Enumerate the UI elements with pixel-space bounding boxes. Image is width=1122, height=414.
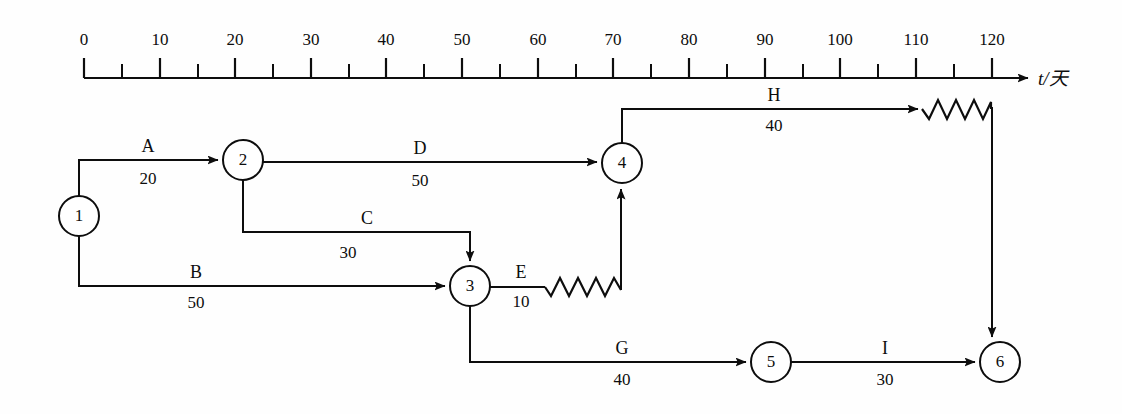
- axis-tick-label: 90: [757, 30, 774, 49]
- activity-E-name: E: [516, 262, 527, 282]
- axis-tick-label: 50: [454, 30, 471, 49]
- activity-G-name: G: [616, 338, 629, 358]
- axis-tick-label: 70: [605, 30, 622, 49]
- activity-G: [470, 306, 746, 362]
- event-node-6-label: 6: [996, 352, 1005, 371]
- event-node-4[interactable]: 4: [602, 143, 642, 183]
- axis-tick-label: 100: [827, 30, 853, 49]
- activity-H-duration: 40: [766, 116, 783, 135]
- event-node-6[interactable]: 6: [980, 342, 1020, 382]
- activity-B-duration: 50: [188, 293, 205, 312]
- axis-tick-label: 0: [80, 30, 89, 49]
- axis-tick-label: 60: [530, 30, 547, 49]
- time-axis: 0 10 20 30 40 50 60 70 80 90 100 110 120…: [80, 30, 1070, 89]
- activity-C: [243, 180, 470, 261]
- event-node-3-label: 3: [466, 276, 475, 295]
- axis-tick-label: 110: [904, 30, 929, 49]
- axis-tick-label: 20: [227, 30, 244, 49]
- activity-B-name: B: [190, 262, 202, 282]
- event-node-3[interactable]: 3: [450, 266, 490, 306]
- event-node-5[interactable]: 5: [751, 342, 791, 382]
- activity-H-name: H: [768, 85, 781, 105]
- activity-D-name: D: [414, 138, 427, 158]
- activity-G-path: [470, 306, 746, 362]
- activity-A-duration: 20: [140, 169, 157, 188]
- event-node-1-label: 1: [75, 206, 84, 225]
- axis-tick-label: 30: [303, 30, 320, 49]
- event-node-2-label: 2: [239, 150, 248, 169]
- event-node-1[interactable]: 1: [59, 196, 99, 236]
- activity-B: [79, 236, 445, 286]
- diagram-canvas: 0 10 20 30 40 50 60 70 80 90 100 110 120…: [0, 0, 1122, 414]
- activity-C-path: [243, 180, 470, 261]
- activity-C-duration: 30: [340, 243, 357, 262]
- activity-I-duration: 30: [877, 370, 894, 389]
- activity-E-duration: 10: [513, 292, 530, 311]
- event-node-5-label: 5: [767, 352, 776, 371]
- axis-tick-label: 80: [681, 30, 698, 49]
- event-node-4-label: 4: [618, 153, 627, 172]
- activity-A-name: A: [142, 136, 155, 156]
- activity-G-duration: 40: [614, 370, 631, 389]
- axis-tick-label: 120: [979, 30, 1005, 49]
- activity-H-float-zigzag: [922, 100, 991, 119]
- activity-E: [490, 189, 621, 296]
- activity-B-path: [79, 236, 445, 286]
- activity-C-name: C: [361, 208, 373, 228]
- event-node-2[interactable]: 2: [223, 140, 263, 180]
- activity-D-duration: 50: [412, 171, 429, 190]
- activity-H: [622, 100, 992, 337]
- axis-title: t/天: [1038, 68, 1070, 89]
- axis-tick-label: 40: [378, 30, 395, 49]
- network-diagram-figure: 0 10 20 30 40 50 60 70 80 90 100 110 120…: [0, 0, 1122, 414]
- activity-I-name: I: [882, 338, 888, 358]
- axis-tick-label: 10: [152, 30, 169, 49]
- activity-E-float-zigzag: [545, 278, 621, 296]
